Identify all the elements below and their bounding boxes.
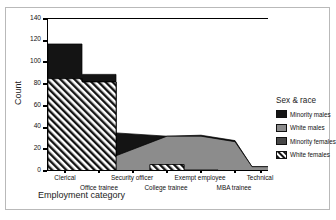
x-tick-label-security-officer: Security officer (106, 174, 158, 181)
y-tick-label: 20 (15, 145, 41, 152)
y-tick-label: 60 (15, 102, 41, 109)
y-tick-label: 80 (15, 80, 41, 87)
y-tick-label: 140 (15, 15, 41, 22)
stacked-area-series (48, 19, 268, 170)
legend-label-minority-males: Minority males (290, 111, 331, 118)
legend-item-white-males[interactable]: White males (276, 124, 334, 132)
plot-area (47, 18, 268, 170)
y-tick-label: 0 (15, 167, 41, 174)
legend-item-white-females[interactable]: White females (276, 151, 334, 159)
legend-swatch-white-females (276, 151, 287, 159)
x-tick-label-technical: Technical (238, 174, 282, 181)
legend-swatch-minority-females (276, 137, 287, 145)
x-tick-label-mba-trainee: MBA trainee (210, 184, 258, 191)
legend-swatch-minority-males (276, 110, 287, 118)
y-tick-label: 40 (15, 123, 41, 130)
x-tick-label-clerical: Clerical (44, 174, 86, 181)
legend-item-minority-males[interactable]: Minority males (276, 110, 334, 118)
legend-title: Sex & race (276, 96, 334, 105)
y-axis-label: Count (13, 63, 23, 123)
legend: Sex & race Minority males White males Mi… (276, 96, 334, 164)
x-axis-label: Employment category (38, 190, 125, 200)
legend-label-minority-females: Minority females (290, 138, 336, 145)
y-tick-label: 120 (15, 36, 41, 43)
legend-swatch-white-males (276, 124, 287, 132)
legend-item-minority-females[interactable]: Minority females (276, 137, 334, 145)
y-tick-label: 100 (15, 58, 41, 65)
chart-page: Count 0 20 40 60 80 100 120 140 (0, 0, 336, 220)
legend-label-white-females: White females (290, 151, 330, 158)
x-tick-label-college-trainee: College trainee (142, 184, 190, 191)
x-tick-label-exempt-employee: Exempt employee (172, 174, 228, 181)
legend-label-white-males: White males (290, 124, 325, 131)
